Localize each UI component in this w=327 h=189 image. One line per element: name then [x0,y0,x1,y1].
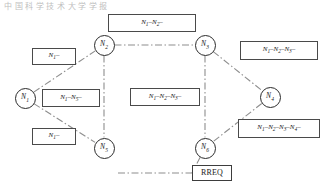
rreq-label: RREQ [201,169,223,177]
graph-node-label: N5 [100,143,108,153]
path-label-box-lower-right: N1–N2–N3–N4– [238,119,320,138]
rreq-packet-box[interactable]: RREQ [192,165,232,181]
path-label-text: N1–N2–N3– [263,46,295,55]
path-label-box-top: N1–N2– [108,14,196,32]
graph-node-n6[interactable]: N6 [195,138,216,159]
graph-node-n5[interactable]: N5 [94,138,115,159]
path-label-text: N1–N2–N3– [149,93,181,102]
path-label-box-center: N1–N2–N3– [130,88,200,106]
path-label-box-upper-right: N1–N2–N3– [240,41,318,60]
path-label-box-lower-left: N1– [32,128,76,145]
graph-node-n4[interactable]: N4 [260,87,281,108]
graph-node-label: N2 [100,40,108,50]
path-label-text: N1–N2–N3–N4– [257,124,300,133]
path-label-text: N1–N2– [141,19,163,28]
graph-node-n2[interactable]: N2 [94,35,115,56]
path-label-text: N1– [49,132,60,141]
path-label-box-mid-left: N1–N5– [42,89,100,107]
graph-node-n1[interactable]: N1 [15,88,36,109]
graph-node-label: N1 [21,93,29,103]
graph-node-n3[interactable]: N3 [195,35,216,56]
path-label-text: N1– [49,52,60,61]
graph-node-label: N4 [266,92,274,102]
graph-node-label: N6 [201,143,209,153]
graph-node-label: N3 [201,40,209,50]
diagram-canvas: 中 国 科 学 技 术 大 学 学 报 N1N2N3N4N5N6 N1–N2–N… [0,0,327,189]
path-label-box-upper-left: N1– [32,48,76,65]
path-label-text: N1–N5– [60,94,82,103]
